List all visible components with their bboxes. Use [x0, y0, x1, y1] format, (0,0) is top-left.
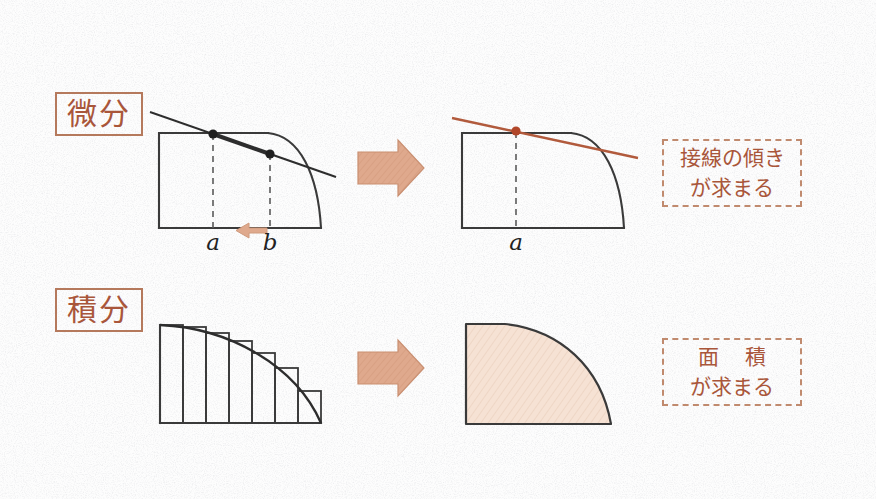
secant-line-figure — [150, 112, 336, 238]
axis-label-a: a — [206, 229, 220, 255]
diagram-layer: a b a — [0, 0, 876, 499]
riemann-rect — [229, 341, 252, 423]
result-tangent-line-2: が求まる — [690, 173, 774, 203]
filled-area-figure — [466, 324, 611, 424]
riemann-rect — [160, 325, 183, 423]
secant-chord — [213, 134, 270, 154]
point-b — [265, 149, 274, 158]
point-a — [511, 126, 520, 135]
area-region — [466, 324, 611, 424]
riemann-rect — [206, 333, 229, 423]
tangent-line-figure — [452, 118, 638, 228]
riemann-rect — [183, 327, 206, 423]
slide-canvas: 微分 — [0, 0, 876, 499]
result-tangent: 接線の傾き が求まる — [662, 139, 802, 207]
transition-arrow-derivative — [358, 140, 424, 196]
curve-quarter-circle — [268, 133, 321, 228]
curve-quarter-circle — [571, 133, 624, 228]
label-integral: 積分 — [55, 288, 143, 332]
axis-label-b: b — [263, 229, 278, 255]
result-area: 面 積 が求まる — [662, 338, 802, 406]
result-tangent-line-1: 接線の傾き — [680, 143, 785, 173]
curve-quarter-circle — [160, 325, 321, 423]
axis-label-a-tangent: a — [509, 229, 523, 255]
result-area-line-1: 面 積 — [688, 342, 777, 372]
tangent-line — [452, 118, 638, 158]
point-a — [208, 129, 217, 138]
transition-arrow-integral — [358, 340, 424, 396]
result-area-line-2: が求まる — [690, 372, 774, 402]
riemann-rectangles-figure — [160, 325, 321, 423]
